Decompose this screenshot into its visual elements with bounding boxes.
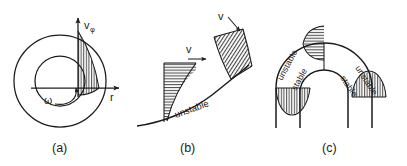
v-label-upper: v [218, 10, 224, 22]
panel-a-group: vφ r ω (a) [14, 18, 119, 155]
caption-c: (c) [322, 141, 337, 155]
omega-label: ω [44, 94, 52, 106]
figure-root: vφ r ω (a) v [0, 0, 407, 166]
r-axis-label: r [110, 91, 114, 103]
caption-b: (b) [180, 141, 195, 155]
panel-b-group: v v unstable (b) [137, 10, 260, 155]
unstable-label-b: unstable [173, 97, 210, 119]
panel-c-group: unstable unstable stable stable (c) [272, 22, 390, 155]
v-phi-axis-label: vφ [84, 19, 95, 34]
v-arrow-upper [228, 17, 240, 31]
figure-canvas: vφ r ω (a) v [0, 0, 407, 166]
caption-a: (a) [52, 141, 67, 155]
v-label-left: v [186, 43, 192, 55]
